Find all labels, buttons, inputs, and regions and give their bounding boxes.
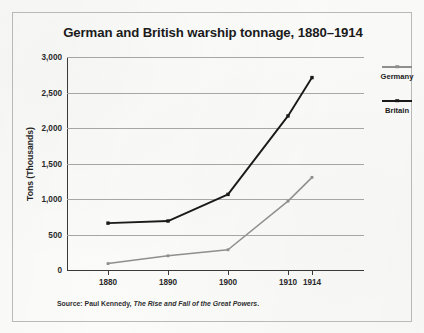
- x-tick-mark-1910: [288, 270, 289, 275]
- source-prefix: Source: Paul Kennedy,: [57, 300, 132, 307]
- x-tick-mark-1890: [168, 270, 169, 275]
- x-tick-1914: 1914: [303, 278, 321, 287]
- chart-title: German and British warship tonnage, 1880…: [13, 25, 413, 40]
- point-germany-1890: [167, 254, 170, 257]
- legend-label-britain: Britain: [368, 106, 424, 115]
- point-germany-1910: [287, 200, 290, 203]
- legend-marker: [395, 65, 399, 69]
- plot-area: 05001,0001,5002,0002,5003,000 1880189019…: [67, 57, 364, 270]
- point-britain-1890: [166, 219, 169, 222]
- x-tick-1900: 1900: [219, 278, 237, 287]
- point-germany-1914: [311, 176, 314, 179]
- y-tick-0: 0: [57, 266, 62, 275]
- legend-marker: [395, 99, 399, 103]
- x-tick-1890: 1890: [159, 278, 177, 287]
- legend-swatch-germany-icon: [382, 63, 412, 70]
- y-tick-1000: 1,000: [42, 195, 63, 204]
- series-plot: [67, 57, 364, 270]
- y-tick-2500: 2,500: [42, 88, 63, 97]
- series-germany: [107, 176, 314, 265]
- x-tick-mark-1880: [108, 270, 109, 275]
- point-germany-1900: [227, 248, 230, 251]
- gridline-0: [67, 270, 364, 271]
- y-tick-500: 500: [48, 230, 62, 239]
- point-germany-1880: [107, 262, 110, 265]
- point-britain-1900: [226, 193, 229, 196]
- source-title: The Rise and Fall of the Great Powers: [133, 300, 257, 307]
- legend-label-germany: Germany: [368, 72, 424, 81]
- y-tick-3000: 3,000: [42, 53, 63, 62]
- x-tick-mark-1914: [312, 270, 313, 275]
- source-note: Source: Paul Kennedy, The Rise and Fall …: [57, 300, 259, 307]
- x-tick-1910: 1910: [279, 278, 297, 287]
- legend-swatch-britain-icon: [382, 97, 412, 104]
- y-tick-1500: 1,500: [42, 159, 63, 168]
- legend: GermanyBritain: [368, 63, 424, 131]
- y-axis-title-label: Tons (Thousands): [25, 127, 35, 201]
- point-britain-1880: [106, 221, 109, 224]
- point-britain-1910: [286, 114, 289, 117]
- source-suffix: .: [257, 300, 259, 307]
- x-tick-mark-1900: [228, 270, 229, 275]
- line-germany: [108, 177, 312, 263]
- y-axis-title: Tons (Thousands): [23, 57, 37, 270]
- legend-entry-germany[interactable]: Germany: [368, 63, 424, 81]
- line-britain: [108, 78, 312, 224]
- series-britain: [106, 76, 313, 225]
- legend-entry-britain[interactable]: Britain: [368, 97, 424, 115]
- figure-page: German and British warship tonnage, 1880…: [0, 0, 424, 333]
- y-tick-2000: 2,000: [42, 124, 63, 133]
- figure-frame: German and British warship tonnage, 1880…: [12, 12, 412, 322]
- x-tick-1880: 1880: [99, 278, 117, 287]
- point-britain-1914: [310, 76, 313, 79]
